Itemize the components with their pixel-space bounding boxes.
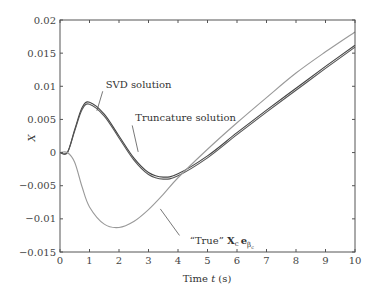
x-tick-label: 4 xyxy=(175,255,181,266)
y-tick-label: −0.015 xyxy=(19,247,56,258)
x-axis-label: Time t (s) xyxy=(183,273,232,284)
y-tick-label: 0 xyxy=(50,147,56,158)
x-tick-label: 3 xyxy=(145,255,151,266)
y-tick-label: 0.02 xyxy=(34,15,56,26)
x-tick-label: 7 xyxy=(263,255,269,266)
x-tick-label: 8 xyxy=(293,255,299,266)
annotation-svd: SVD solution xyxy=(106,79,172,90)
x-tick-label: 10 xyxy=(349,255,362,266)
y-axis-label: X xyxy=(26,134,37,143)
x-tick-label: 1 xyxy=(86,255,92,266)
y-tick-label: −0.005 xyxy=(19,180,56,191)
y-tick-label: −0.01 xyxy=(25,213,56,224)
annotation-truncature: Truncature solution xyxy=(135,112,236,123)
x-tick-label: 9 xyxy=(322,255,328,266)
x-tick-label: 0 xyxy=(57,255,63,266)
y-tick-label: 0.01 xyxy=(34,81,56,92)
x-tick-label: 2 xyxy=(116,255,122,266)
line-chart: 0123456789100.020.0150.010.0050−0.005−0.… xyxy=(0,0,372,293)
x-tick-label: 6 xyxy=(234,255,240,266)
y-tick-label: 0.005 xyxy=(27,114,56,125)
y-tick-label: 0.015 xyxy=(27,48,56,59)
x-tick-label: 5 xyxy=(204,255,210,266)
